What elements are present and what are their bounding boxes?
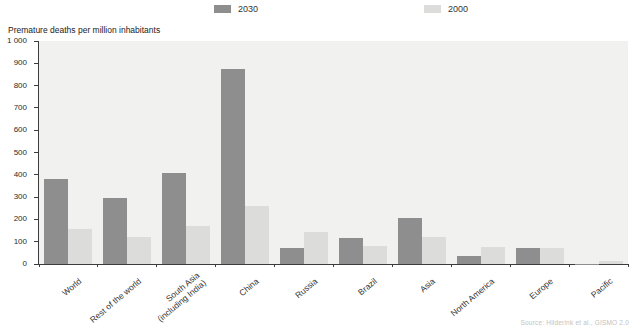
x-axis-label-text: Pacific (588, 276, 614, 300)
bar-2000 (245, 206, 269, 264)
x-axis-tick (274, 264, 275, 267)
x-axis-tick (451, 264, 452, 267)
y-axis-tick-label: 100 (0, 238, 27, 246)
plot-area: 01002003004005006007008009001 000 (38, 41, 628, 265)
x-axis-tick (215, 264, 216, 267)
x-axis-tick (628, 264, 629, 267)
bar-2000 (481, 247, 505, 264)
bar-2000 (186, 226, 210, 264)
bar-group (275, 41, 334, 264)
bar-2030 (398, 218, 422, 264)
y-axis-tick-label: 800 (0, 82, 27, 90)
bar-2000 (68, 229, 92, 264)
y-axis-tick-label: 200 (0, 215, 27, 223)
bar-2000 (422, 237, 446, 264)
y-axis-tick-label: 0 (0, 260, 27, 268)
x-axis-label: Pacific (428, 270, 608, 288)
legend-item-2030: 2030 (214, 4, 258, 14)
legend-swatch-2000 (424, 5, 441, 13)
bar-chart-figure: 2030 2000 Premature deaths per million i… (0, 0, 634, 331)
legend-swatch-2030 (214, 5, 231, 13)
legend-label-2030: 2030 (238, 4, 258, 14)
y-axis-tick-label: 600 (0, 126, 27, 134)
bar-2030 (221, 69, 245, 264)
x-axis-tick (333, 264, 334, 267)
bar-group (157, 41, 216, 264)
x-axis-tick (97, 264, 98, 267)
bar-group (98, 41, 157, 264)
x-axis-tick (569, 264, 570, 267)
bar-2000 (599, 261, 623, 264)
bar-group (216, 41, 275, 264)
y-axis-tick-label: 1 000 (0, 37, 27, 45)
bar-group (39, 41, 98, 264)
bar-2000 (304, 232, 328, 264)
y-axis-tick-label: 900 (0, 59, 27, 67)
bar-2030 (339, 238, 363, 264)
bar-2000 (127, 237, 151, 264)
bar-2030 (457, 256, 481, 264)
y-axis-tick-label: 700 (0, 104, 27, 112)
bar-group (569, 41, 628, 264)
bar-group (510, 41, 569, 264)
bar-group (451, 41, 510, 264)
legend-label-2000: 2000 (448, 4, 468, 14)
bar-2030 (103, 198, 127, 264)
source-note: Source: Hilderink et al., GISMO 2.0 (520, 319, 629, 326)
x-axis-tick (39, 264, 40, 267)
bar-2030 (280, 248, 304, 264)
y-axis-tick-label: 400 (0, 171, 27, 179)
bar-2030 (516, 248, 540, 264)
x-axis-tick (392, 264, 393, 267)
bar-2000 (363, 246, 387, 264)
bar-group (392, 41, 451, 264)
x-axis-tick (156, 264, 157, 267)
x-axis-tick (510, 264, 511, 267)
y-axis-tick-label: 500 (0, 149, 27, 157)
legend-item-2000: 2000 (424, 4, 468, 14)
bar-2000 (540, 248, 564, 264)
bar-group (334, 41, 393, 264)
bar-2030 (162, 173, 186, 264)
y-axis-title: Premature deaths per million inhabitants (8, 25, 160, 35)
y-axis-tick-label: 300 (0, 193, 27, 201)
bar-2030 (44, 179, 68, 264)
